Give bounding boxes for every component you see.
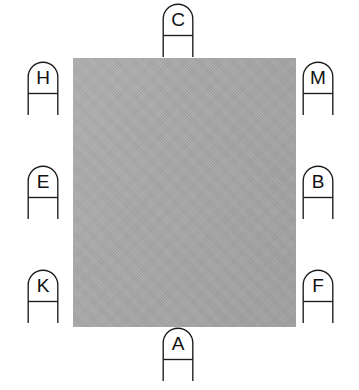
callout-arch-icon: A	[162, 328, 194, 382]
figure-canvas: C H M E B	[0, 0, 359, 390]
callout-marker-e[interactable]: E	[27, 166, 59, 220]
callout-letter: F	[312, 275, 324, 296]
callout-marker-k[interactable]: K	[27, 270, 59, 324]
callout-letter: C	[171, 9, 185, 30]
callout-marker-a[interactable]: A	[162, 328, 194, 382]
callout-arch-icon: C	[162, 4, 194, 58]
callout-letter: E	[37, 171, 50, 192]
callout-letter: A	[172, 333, 185, 354]
callout-marker-f[interactable]: F	[302, 270, 334, 324]
callout-arch-icon: K	[27, 270, 59, 324]
callout-letter: H	[36, 67, 50, 88]
callout-marker-h[interactable]: H	[27, 62, 59, 116]
callout-arch-icon: B	[302, 166, 334, 220]
callout-marker-m[interactable]: M	[302, 62, 334, 116]
callout-arch-icon: M	[302, 62, 334, 116]
gray-panel	[73, 58, 296, 327]
callout-arch-icon: E	[27, 166, 59, 220]
callout-letter: M	[310, 67, 326, 88]
callout-marker-b[interactable]: B	[302, 166, 334, 220]
callout-marker-c[interactable]: C	[162, 4, 194, 58]
callout-arch-icon: H	[27, 62, 59, 116]
callout-arch-icon: F	[302, 270, 334, 324]
callout-letter: K	[37, 275, 50, 296]
callout-letter: B	[312, 171, 325, 192]
